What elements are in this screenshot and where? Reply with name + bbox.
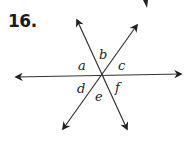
- angle-label-e: e: [95, 89, 103, 104]
- cropped-arrow-fragment: [143, 0, 148, 8]
- angle-label-c: c: [118, 58, 126, 73]
- angle-label-d: d: [77, 81, 85, 96]
- angle-label-b: b: [99, 47, 107, 62]
- horizontal-line: [16, 74, 181, 77]
- angle-label-a: a: [78, 58, 86, 73]
- angle-label-f: f: [114, 80, 122, 95]
- line-up-right-down-left: [63, 25, 137, 129]
- intersecting-lines-diagram: a b c d e f: [0, 0, 189, 145]
